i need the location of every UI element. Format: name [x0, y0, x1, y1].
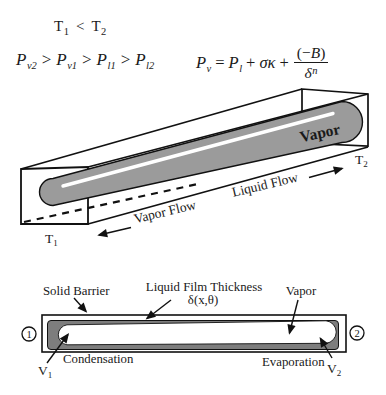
t1-label: T1 — [45, 231, 58, 248]
micro-heat-pipe-figure: T1<T2 Pv2>Pv1>Pl1>Pl2 Pv = Pl + σκ + (−B… — [0, 0, 386, 395]
film-thickness-label: Liquid Film Thickness — [146, 280, 262, 294]
evaporation-label: Evaporation — [262, 355, 325, 369]
end-2-number: 2 — [354, 328, 359, 339]
cross-section-diagram: 1 2 Solid Barrier Liquid Film Thickness … — [22, 280, 364, 380]
diagrams-canvas: Vapor Vapor Flow Liquid Flow T1 T2 1 2 S… — [0, 0, 386, 395]
vapor-flow-label: Vapor Flow — [132, 197, 197, 226]
v2-label: V2 — [327, 361, 341, 378]
liquid-flow-arrow — [309, 169, 342, 178]
heat-pipe-3d-diagram: Vapor Vapor Flow Liquid Flow T1 T2 — [21, 89, 368, 248]
v1-label: V1 — [38, 363, 52, 380]
end-1-number: 1 — [26, 329, 31, 340]
condensation-label: Condensation — [63, 352, 134, 366]
t2-label: T2 — [355, 152, 368, 169]
solid-barrier-arrow — [74, 298, 86, 312]
vapor-core-region — [58, 321, 336, 345]
solid-barrier-label: Solid Barrier — [43, 284, 110, 298]
liquid-flow-label: Liquid Flow — [231, 169, 300, 199]
film-thickness-symbol: δ(x,θ) — [188, 293, 218, 307]
vapor-label: Vapor — [286, 284, 317, 298]
vapor-flow-arrow — [99, 228, 131, 236]
